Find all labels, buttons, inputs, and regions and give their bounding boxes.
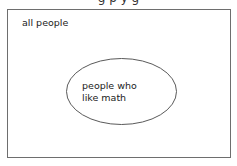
set-label: people who like math [82,80,137,103]
set-label-line-1: people who [82,80,137,92]
set-label-line-2: like math [82,92,137,104]
